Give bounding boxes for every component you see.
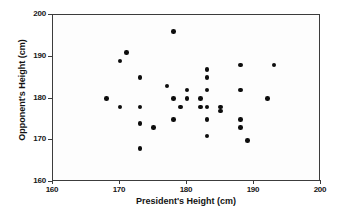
data-points-layer: [53, 15, 319, 180]
data-point: [198, 96, 203, 101]
x-tick-mark: [52, 180, 53, 184]
data-point: [118, 105, 123, 110]
x-tick-label: 160: [32, 185, 72, 194]
data-point: [185, 96, 190, 101]
data-point: [151, 125, 156, 130]
y-tick-mark: [48, 181, 52, 182]
data-point: [171, 117, 176, 122]
x-axis-label: President's Height (cm): [52, 196, 320, 206]
y-tick-mark: [48, 14, 52, 15]
data-point: [238, 117, 243, 122]
x-tick-label: 170: [99, 185, 139, 194]
data-point: [238, 88, 243, 93]
data-point: [138, 121, 143, 126]
data-point: [165, 84, 170, 89]
data-point: [104, 96, 109, 101]
data-point: [138, 75, 143, 80]
data-point: [205, 67, 210, 72]
x-tick-label: 190: [233, 185, 273, 194]
data-point: [238, 125, 243, 130]
x-tick-mark: [186, 180, 187, 184]
y-tick-label: 160: [16, 176, 46, 185]
data-point: [124, 50, 129, 55]
data-point: [238, 63, 243, 68]
data-point: [178, 105, 183, 110]
data-point: [218, 109, 223, 114]
data-point: [205, 117, 210, 122]
data-point: [245, 138, 250, 143]
y-tick-mark: [48, 139, 52, 140]
data-point: [205, 134, 210, 139]
scatter-plot-figure: 160170180190200 160170180190200 Presiden…: [0, 0, 342, 217]
y-tick-mark: [48, 98, 52, 99]
data-point: [218, 105, 223, 110]
y-tick-mark: [48, 56, 52, 57]
data-point: [198, 105, 203, 110]
y-axis-label: Opponent's Height (cm): [17, 10, 27, 170]
data-point: [138, 105, 143, 110]
x-tick-label: 200: [300, 185, 340, 194]
x-tick-mark: [320, 180, 321, 184]
data-point: [265, 96, 270, 101]
data-point: [205, 105, 210, 110]
data-point: [118, 59, 123, 64]
x-tick-label: 180: [166, 185, 206, 194]
data-point: [185, 88, 190, 93]
data-point: [272, 63, 277, 68]
data-point: [205, 88, 210, 93]
data-point: [138, 146, 143, 151]
data-point: [205, 75, 210, 80]
data-point: [171, 96, 176, 101]
data-point: [171, 29, 176, 34]
plot-area: [52, 14, 320, 181]
x-tick-mark: [253, 180, 254, 184]
x-tick-mark: [119, 180, 120, 184]
